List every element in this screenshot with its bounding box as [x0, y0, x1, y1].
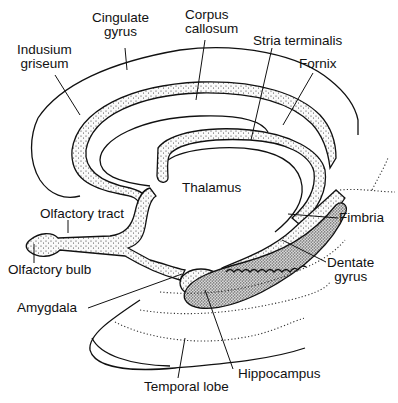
label-olfactory-bulb: Olfactory bulb: [8, 263, 91, 277]
label-olfactory-tract: Olfactory tract: [40, 207, 124, 221]
label-line: Corpus: [185, 8, 238, 22]
label-fimbria: Fimbria: [339, 211, 384, 225]
label-line: gyrus: [327, 270, 374, 284]
leader-temporal: [178, 338, 185, 378]
leader-cingulate: [125, 48, 127, 70]
label-cingulate-gyrus: Cingulate gyrus: [92, 11, 149, 39]
label-stria-terminalis: Stria terminalis: [253, 34, 342, 48]
sulcus-dotted-4: [340, 189, 395, 192]
label-thalamus: Thalamus: [182, 181, 241, 195]
sulcus-dotted-5: [372, 158, 388, 190]
corpus-callosum-outline: [100, 116, 268, 186]
label-line: Dentate: [327, 256, 374, 270]
label-corpus-callosum: Corpus callosum: [185, 8, 238, 36]
label-dentate-gyrus: Dentate gyrus: [327, 256, 374, 284]
label-line: Indusium: [17, 43, 72, 57]
label-line: Cingulate: [92, 11, 149, 25]
label-fornix: Fornix: [299, 57, 337, 71]
label-line: griseum: [17, 57, 72, 71]
sulcus-dotted-3: [115, 318, 305, 341]
label-line: gyrus: [92, 25, 149, 39]
label-temporal-lobe: Temporal lobe: [144, 380, 229, 394]
label-hippocampus: Hippocampus: [238, 367, 321, 381]
temporal-lobe-lower-arc: [92, 338, 170, 366]
label-indusium-griseum: Indusium griseum: [17, 43, 72, 71]
label-amygdala: Amygdala: [17, 301, 77, 315]
label-line: callosum: [185, 22, 238, 36]
